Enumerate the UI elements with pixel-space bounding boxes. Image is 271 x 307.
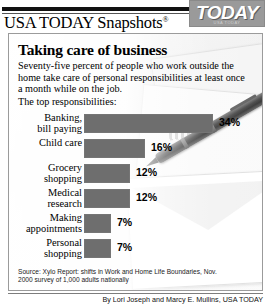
page-title: Taking care of business — [18, 41, 167, 59]
snapshots-wordmark: USA TODAY Snapshots® — [4, 13, 168, 33]
bar-category-label: Medical research — [8, 187, 82, 210]
bar-category-label: Making appointments — [8, 212, 82, 235]
bar-track — [84, 189, 130, 208]
usa-today-logo-subtext: USA TODAY — [190, 20, 264, 25]
bar-row: Grocery shopping12% — [9, 162, 263, 187]
bar-fill — [84, 164, 130, 183]
bar-category-label: Child care — [8, 137, 82, 148]
bar-value-label: 16% — [151, 141, 172, 153]
bar-value-label: 7% — [117, 241, 132, 253]
bar-value-label: 7% — [117, 216, 132, 228]
bar-row: Banking, bill paying34% — [9, 112, 263, 137]
deck-lead-text: The top responsibilities: — [18, 96, 116, 108]
bar-fill — [84, 189, 130, 208]
bar-fill — [84, 114, 213, 133]
bar-chart: Banking, bill paying34%Child care16%Groc… — [9, 112, 263, 262]
bar-track — [84, 239, 111, 258]
snapshot-panel: Taking care of business Seventy-five per… — [8, 33, 263, 291]
bar-track — [84, 139, 145, 158]
byline: By Lori Joseph and Marcy E. Mullins, USA… — [102, 295, 263, 304]
masthead-rule-thick — [2, 7, 210, 11]
deck-text: Seventy-five percent of people who work … — [18, 60, 246, 95]
source-note: Source: Xylo Report: shifts in Work and … — [18, 268, 223, 284]
registered-trademark-icon: ® — [163, 15, 169, 24]
masthead: USA TODAY Snapshots® TODAY USA TODAY — [0, 0, 271, 31]
bar-row: Medical research12% — [9, 187, 263, 212]
byline-rule — [8, 293, 263, 294]
snapshots-wordmark-text: USA TODAY Snapshots — [4, 13, 163, 32]
bar-row: Personal shopping7% — [9, 237, 263, 262]
bar-row: Making appointments7% — [9, 212, 263, 237]
bar-fill — [84, 214, 111, 233]
bar-value-label: 12% — [136, 166, 157, 178]
bar-fill — [84, 239, 111, 258]
bar-category-label: Grocery shopping — [8, 162, 82, 185]
bar-track — [84, 214, 111, 233]
bar-fill — [84, 139, 145, 158]
usa-today-logo: TODAY USA TODAY — [189, 0, 265, 27]
panel-content: Taking care of business Seventy-five per… — [9, 34, 262, 290]
bar-category-label: Personal shopping — [8, 237, 82, 260]
bar-value-label: 34% — [219, 116, 240, 128]
bar-category-label: Banking, bill paying — [8, 112, 82, 135]
bar-track — [84, 164, 130, 183]
bar-row: Child care16% — [9, 137, 263, 162]
bar-track — [84, 114, 213, 133]
bar-value-label: 12% — [136, 191, 157, 203]
